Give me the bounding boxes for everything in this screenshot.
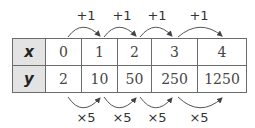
table-cell: 1250 (198, 66, 247, 93)
bottom-arc-3-4 (178, 97, 222, 108)
top-arc-2-3 (140, 27, 172, 37)
table-cell: 250 (152, 66, 198, 93)
bottom-annotation: ×5 (76, 110, 95, 125)
table-cell: 3 (152, 39, 198, 66)
bottom-annotation: ×5 (112, 110, 131, 125)
table-cell: 50 (118, 66, 152, 93)
function-table: x 0 1 2 3 4 y 2 10 50 250 1250 (12, 38, 247, 93)
top-arcs (68, 27, 222, 37)
top-annotation: +1 (147, 8, 166, 23)
table-cell: 10 (82, 66, 118, 93)
top-annotation: +1 (112, 8, 131, 23)
bottom-annotation: ×5 (147, 110, 166, 125)
top-annotation: +1 (189, 8, 208, 23)
table-cell: 2 (118, 39, 152, 66)
table-row-y: y 2 10 50 250 1250 (13, 66, 247, 93)
table-row-x: x 0 1 2 3 4 (13, 39, 247, 66)
table-cell: 0 (46, 39, 82, 66)
top-arc-1-2 (104, 27, 136, 37)
top-annotation: +1 (76, 8, 95, 23)
bottom-arc-0-1 (68, 97, 100, 108)
top-arc-3-4 (178, 27, 222, 37)
table-cell: 1 (82, 39, 118, 66)
top-arc-0-1 (68, 27, 100, 37)
bottom-arcs (68, 97, 222, 108)
bottom-arc-1-2 (104, 97, 136, 108)
bottom-arc-2-3 (140, 97, 172, 108)
row-header-y: y (13, 66, 46, 93)
row-header-x: x (13, 39, 46, 66)
bottom-annotation: ×5 (189, 110, 208, 125)
table-cell: 4 (198, 39, 247, 66)
table-cell: 2 (46, 66, 82, 93)
